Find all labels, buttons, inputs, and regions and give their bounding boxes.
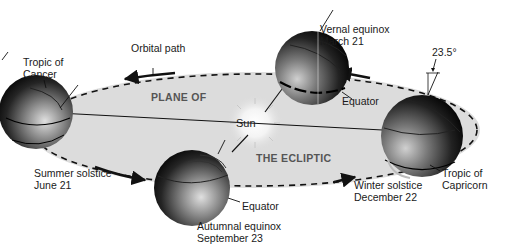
winter-solstice-date: December 22 bbox=[354, 191, 422, 203]
tropic-cancer-line2: Cancer bbox=[23, 68, 63, 80]
autumnal-equinox-label: Autumnal equinox September 23 bbox=[197, 220, 281, 244]
winter-solstice-name: Winter solstice bbox=[354, 179, 422, 191]
vernal-equinox-name: Vernal equinox bbox=[320, 23, 389, 35]
the-ecliptic-label: THE ECLIPTIC bbox=[256, 152, 331, 164]
sun-label: Sun bbox=[236, 117, 256, 129]
tropic-of-cancer-label: Tropic of Cancer bbox=[23, 56, 63, 80]
ecliptic-diagram: Tropic of Cancer Orbital path Vernal equ… bbox=[0, 0, 509, 251]
summer-solstice-date: June 21 bbox=[34, 179, 112, 191]
earth-winter-solstice bbox=[381, 59, 463, 178]
tropic-cancer-line1: Tropic of bbox=[23, 56, 63, 68]
plane-of-label: PLANE OF bbox=[151, 91, 206, 103]
summer-solstice-name: Summer solstice bbox=[34, 167, 112, 179]
orbital-path-label: Orbital path bbox=[131, 42, 185, 54]
autumnal-equinox-date: September 23 bbox=[197, 232, 281, 244]
summer-solstice-label: Summer solstice June 21 bbox=[34, 167, 112, 191]
tropic-capricorn-line2: Capricorn bbox=[442, 179, 488, 191]
vernal-equinox-date: March 21 bbox=[320, 35, 389, 47]
tropic-capricorn-line1: Tropic of bbox=[442, 167, 488, 179]
equator-label-vernal: Equator bbox=[342, 95, 379, 107]
tropic-of-capricorn-label: Tropic of Capricorn bbox=[442, 167, 488, 191]
autumnal-equinox-name: Autumnal equinox bbox=[197, 220, 281, 232]
tilt-angle-label: 23.5° bbox=[432, 46, 457, 58]
vernal-equinox-label: Vernal equinox March 21 bbox=[320, 23, 389, 47]
winter-solstice-label: Winter solstice December 22 bbox=[354, 179, 422, 203]
equator-label-autumnal: Equator bbox=[242, 200, 279, 212]
